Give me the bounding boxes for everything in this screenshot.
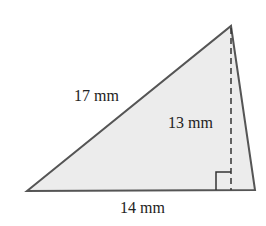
side-label-17: 17 mm bbox=[74, 87, 119, 104]
base-label-14: 14 mm bbox=[120, 199, 165, 216]
height-label-13: 13 mm bbox=[168, 114, 213, 131]
triangle-diagram: 17 mm 13 mm 14 mm bbox=[0, 0, 266, 226]
triangle-shape bbox=[27, 26, 255, 191]
